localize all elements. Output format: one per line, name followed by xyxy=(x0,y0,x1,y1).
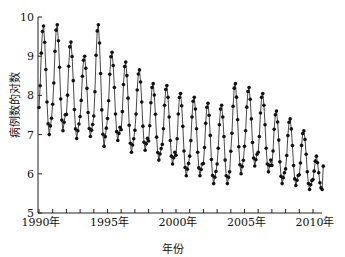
data-point xyxy=(78,115,82,119)
data-point xyxy=(221,115,225,119)
data-point xyxy=(140,100,144,104)
data-point xyxy=(214,170,218,174)
data-point xyxy=(258,135,262,139)
data-point xyxy=(81,74,85,78)
data-point xyxy=(116,139,120,143)
x-axis-label: 年份 xyxy=(0,240,345,256)
data-point xyxy=(157,158,161,162)
data-point xyxy=(126,96,130,100)
data-point xyxy=(312,169,316,173)
data-point xyxy=(285,154,289,158)
data-point xyxy=(260,96,264,100)
data-point xyxy=(99,72,103,76)
y-tick-label: 10 xyxy=(20,11,34,24)
data-point xyxy=(123,65,127,69)
data-point xyxy=(239,172,243,176)
data-point xyxy=(70,55,74,59)
data-point xyxy=(230,131,234,135)
data-point xyxy=(309,183,313,187)
data-point xyxy=(290,127,294,131)
data-point xyxy=(102,145,106,149)
data-point xyxy=(68,45,72,49)
data-point xyxy=(86,111,90,115)
data-point xyxy=(71,79,75,83)
data-point xyxy=(203,146,207,150)
data-point xyxy=(184,174,188,178)
data-point xyxy=(44,68,48,72)
data-point xyxy=(298,173,302,177)
data-point xyxy=(308,188,312,192)
data-point xyxy=(100,108,104,112)
data-point xyxy=(276,120,280,124)
data-point xyxy=(236,118,240,122)
data-point xyxy=(181,125,185,129)
data-point xyxy=(187,162,191,166)
data-point xyxy=(89,135,93,139)
data-point xyxy=(176,112,180,116)
y-axis-label: 病例数的对数 xyxy=(6,60,20,150)
data-point xyxy=(318,181,322,185)
data-point xyxy=(137,72,141,76)
data-point xyxy=(250,117,254,121)
data-point xyxy=(59,97,63,101)
data-point xyxy=(162,127,166,131)
x-tick-label: 2005年 xyxy=(227,215,266,229)
data-point xyxy=(275,109,279,113)
data-point xyxy=(121,110,125,114)
data-point xyxy=(198,174,202,178)
data-point xyxy=(277,138,281,142)
data-point xyxy=(62,120,66,124)
data-point xyxy=(178,96,182,100)
data-point xyxy=(303,138,307,142)
data-point xyxy=(94,53,98,57)
data-point xyxy=(299,161,303,165)
data-point xyxy=(131,143,135,147)
data-point xyxy=(67,64,71,68)
data-point xyxy=(130,150,134,154)
data-point xyxy=(320,188,324,192)
data-point xyxy=(53,50,57,54)
data-point xyxy=(227,176,231,180)
data-point xyxy=(154,112,158,116)
data-point xyxy=(240,165,244,169)
data-point xyxy=(204,122,208,126)
data-point xyxy=(138,68,142,72)
data-point xyxy=(228,170,232,174)
data-point xyxy=(165,84,169,88)
data-point xyxy=(148,124,152,128)
data-point xyxy=(245,105,249,109)
data-point xyxy=(168,139,172,143)
data-point xyxy=(145,142,149,146)
data-point xyxy=(246,90,250,94)
line-chart: 56789101990年1995年2000年2005年2010年 xyxy=(0,0,345,257)
x-tick-label: 2000年 xyxy=(159,215,198,229)
data-point xyxy=(58,65,62,69)
data-point xyxy=(220,103,224,107)
data-point xyxy=(106,117,110,121)
data-point xyxy=(270,164,274,168)
data-point xyxy=(83,54,87,58)
data-point xyxy=(192,96,196,100)
data-point xyxy=(54,28,58,32)
data-point xyxy=(271,149,275,153)
data-point xyxy=(205,105,209,109)
data-point xyxy=(167,115,171,119)
data-point xyxy=(147,139,151,143)
data-point xyxy=(215,162,219,166)
data-point xyxy=(267,170,271,174)
data-point xyxy=(95,29,99,33)
data-point xyxy=(219,107,223,111)
data-point xyxy=(207,113,211,117)
data-point xyxy=(135,88,139,92)
data-point xyxy=(139,80,143,84)
data-point xyxy=(117,132,121,136)
data-point xyxy=(259,111,263,115)
data-point xyxy=(199,168,203,172)
data-point xyxy=(272,127,276,131)
data-point xyxy=(280,182,284,186)
data-point xyxy=(125,74,129,78)
data-point xyxy=(253,164,257,168)
data-point xyxy=(79,99,83,103)
data-point xyxy=(41,30,45,34)
data-point xyxy=(232,86,236,90)
